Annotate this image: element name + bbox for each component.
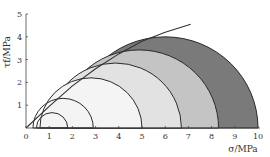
x-tick-label: 8 bbox=[209, 132, 214, 141]
y-tick-label: 5 bbox=[17, 10, 22, 19]
x-tick-label: 5 bbox=[139, 132, 144, 141]
x-tick-label: 7 bbox=[186, 132, 191, 141]
mohr-circles bbox=[33, 37, 258, 128]
x-tick-label: 4 bbox=[116, 132, 121, 141]
x-tick-label: 3 bbox=[93, 132, 98, 141]
mohr-circle-chart: 01234567891012345 τf/MPa σ/MPa bbox=[0, 0, 270, 157]
y-tick-label: 4 bbox=[17, 33, 22, 42]
x-tick-label: 1 bbox=[47, 132, 52, 141]
x-axis-label: σ/MPa bbox=[228, 144, 258, 154]
x-tick-label: 10 bbox=[253, 132, 263, 141]
y-tick-label: 3 bbox=[17, 56, 22, 65]
x-tick-label: 0 bbox=[23, 132, 28, 141]
y-axis-label: τf/MPa bbox=[2, 36, 12, 68]
y-tick-label: 1 bbox=[17, 101, 22, 110]
y-tick-label: 2 bbox=[17, 78, 22, 87]
x-tick-label: 6 bbox=[163, 132, 168, 141]
x-tick-label: 2 bbox=[70, 132, 75, 141]
x-tick-label: 9 bbox=[232, 132, 237, 141]
